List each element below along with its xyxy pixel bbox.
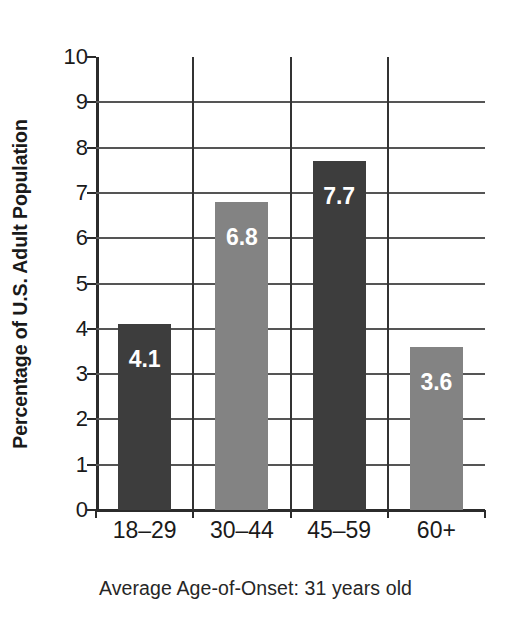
x-axis-tick-label: 30–44: [210, 518, 274, 543]
x-axis-tickmark: [95, 510, 97, 518]
bar-value-label: 7.7: [313, 185, 366, 208]
y-axis-tick-labels: 012345678910: [52, 57, 88, 510]
y-axis-tickmark: [87, 237, 96, 239]
bar: 3.6: [410, 347, 463, 510]
y-axis-tickmark: [87, 418, 96, 420]
plot-area: 4.16.87.73.6: [96, 57, 485, 510]
gridline-vertical: [290, 57, 292, 510]
y-axis-tickmark: [87, 373, 96, 375]
y-axis-label: Percentage of U.S. Adult Population: [9, 119, 32, 448]
x-axis-tick-label: 18–29: [113, 518, 177, 543]
y-axis-tickmark: [87, 56, 96, 58]
x-axis-tick-labels: 18–2930–4445–5960+: [96, 518, 485, 552]
y-axis-tick-label: 10: [64, 46, 88, 68]
gridline-vertical: [387, 57, 389, 510]
chart-caption: Average Age-of-Onset: 31 years old: [0, 577, 511, 600]
gridline-vertical: [192, 57, 194, 510]
bar: 7.7: [313, 161, 366, 510]
bar-chart-figure: Percentage of U.S. Adult Population 0123…: [0, 0, 511, 627]
y-axis-tickmark: [87, 464, 96, 466]
x-axis-tickmark: [192, 510, 194, 518]
bar: 4.1: [118, 324, 171, 510]
bar-value-label: 6.8: [215, 226, 268, 249]
x-axis-tickmark: [387, 510, 389, 518]
y-axis-tickmark: [87, 328, 96, 330]
y-axis-spine: [96, 57, 99, 512]
x-axis-tick-label: 60+: [417, 518, 456, 543]
bar: 6.8: [215, 202, 268, 510]
y-axis-tickmark: [87, 147, 96, 149]
y-axis-tickmark: [87, 101, 96, 103]
y-axis-tickmark: [87, 283, 96, 285]
y-axis-label-container: Percentage of U.S. Adult Population: [6, 57, 34, 510]
bar-value-label: 4.1: [118, 348, 171, 371]
x-axis-tickmark: [484, 510, 486, 518]
x-axis-tick-label: 45–59: [307, 518, 371, 543]
y-axis-tickmark: [87, 192, 96, 194]
bar-value-label: 3.6: [410, 371, 463, 394]
x-axis-tickmark: [290, 510, 292, 518]
